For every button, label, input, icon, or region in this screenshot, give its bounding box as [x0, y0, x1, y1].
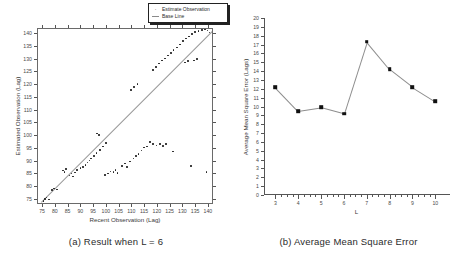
panel-b-x-tick-label: 7: [365, 200, 368, 206]
panel-b-y-tick: [261, 177, 264, 178]
scatter-point: [196, 58, 198, 60]
scatter-point: [191, 33, 193, 35]
panel-b-data-point: [433, 99, 437, 103]
panel-a-y-tick-label: 75: [26, 196, 32, 202]
panel-b-x-minor-tick: [395, 195, 396, 197]
panel-a-y-tick: [34, 148, 37, 149]
scatter-point: [71, 173, 73, 175]
panel-b-x-tick-label: 3: [274, 200, 277, 206]
panel-b-x-tick-label: 5: [320, 200, 323, 206]
panel-a-y-tick-label: 135: [23, 43, 32, 49]
panel-b-x-minor-tick: [298, 195, 299, 197]
panel-b-x-minor-tick: [384, 195, 385, 197]
panel-a-x-tick: [131, 204, 132, 207]
panel-a-x-tick: [106, 204, 107, 207]
panel-a-x-tick-label: 140: [204, 208, 213, 214]
scatter-point: [207, 30, 209, 32]
scatter-point: [115, 169, 117, 171]
panel-b-x-tick-label: 4: [297, 200, 300, 206]
panel-b-x-minor-tick: [344, 195, 345, 197]
panel-a-x-tick-label: 120: [153, 208, 162, 214]
panel-b-y-tick-label: 14: [253, 68, 259, 74]
panel-b-plot-area: [264, 18, 449, 195]
scatter-point: [126, 166, 128, 168]
line-marker-icon: [152, 16, 159, 17]
panel-b-y-axis-title: Average Mean Square Error (Lags): [242, 58, 249, 155]
panel-b-y-tick: [261, 133, 264, 134]
panel-a-x-tick: [119, 204, 120, 207]
panel-b-line-segment: [275, 87, 299, 112]
scatter-point: [87, 162, 89, 164]
panel-a-y-tick-right: [213, 84, 216, 85]
panel-a-x-tick: [208, 204, 209, 207]
scatter-point: [198, 30, 200, 32]
panel-a-y-tick: [34, 59, 37, 60]
scatter-point: [194, 31, 196, 33]
panel-b-x-minor-tick: [355, 195, 356, 197]
panel-b-y-tick-label: 3: [256, 165, 259, 171]
scatter-point: [105, 142, 107, 144]
panel-b-x-minor-tick: [424, 195, 425, 197]
panel-a-x-tick-top: [42, 25, 43, 28]
scatter-point: [173, 49, 175, 51]
panel-b-x-minor-tick: [287, 195, 288, 197]
panel-b-y-tick-label: 10: [253, 104, 259, 110]
panel-b-y-tick-label: 2: [256, 174, 259, 180]
panel-a-base-line: [41, 32, 212, 203]
panel-a-y-tick-right: [213, 173, 216, 174]
scatter-point: [133, 86, 135, 88]
panel-a-x-tick-top: [182, 25, 183, 28]
panel-a-x-tick: [42, 204, 43, 207]
panel-b-y-tick-label: 8: [256, 121, 259, 127]
panel-a-x-tick-label: 85: [65, 208, 71, 214]
panel-a-x-tick: [80, 204, 81, 207]
panel-b-y-tick-label: 17: [253, 42, 259, 48]
scatter-point: [80, 167, 82, 169]
panel-a-y-tick-right: [213, 33, 216, 34]
panel-a-x-tick-top: [119, 25, 120, 28]
panel-b-data-point: [274, 85, 278, 89]
panel-b-y-tick-label: 15: [253, 59, 259, 65]
scatter-point: [74, 172, 76, 174]
panel-a-plot-area: [38, 29, 212, 203]
scatter-point: [161, 60, 163, 62]
scatter-point: [104, 174, 106, 176]
panel-a-x-tick-top: [55, 25, 56, 28]
scatter-point: [90, 158, 92, 160]
panel-a-x-tick-top: [208, 25, 209, 28]
legend-item-estimate-observation: · Estimate Observation: [152, 6, 224, 13]
scatter-point: [152, 69, 154, 71]
panel-b-y-tick: [261, 160, 264, 161]
panel-a-x-tick: [93, 204, 94, 207]
scatter-point: [179, 44, 181, 46]
panel-a-y-tick: [34, 97, 37, 98]
scatter-point: [201, 29, 203, 31]
panel-a-x-tick-label: 75: [39, 208, 45, 214]
panel-b-y-tick-label: 20: [253, 15, 259, 21]
panel-a-y-tick: [34, 46, 37, 47]
panel-a-y-axis-title: Estimated Observation (Lag): [14, 77, 21, 156]
scatter-point: [159, 143, 161, 145]
panel-b-x-minor-tick: [361, 195, 362, 197]
panel-b-data-point: [365, 40, 369, 44]
panel-b-y-tick-label: 11: [254, 95, 259, 101]
panel-a-y-tick-right: [213, 59, 216, 60]
scatter-point: [69, 175, 71, 177]
panel-a-y-tick-right: [213, 97, 216, 98]
panel-a-y-tick-right: [213, 46, 216, 47]
panel-b-x-minor-tick: [407, 195, 408, 197]
panel-a-x-tick-label: 125: [165, 208, 174, 214]
panel-a-x-tick-label: 105: [114, 208, 123, 214]
panel-a-x-tick-label: 135: [191, 208, 200, 214]
panel-a-x-tick-label: 95: [90, 208, 96, 214]
panel-b-y-tick-label: 5: [256, 148, 259, 154]
panel-a-x-tick: [157, 204, 158, 207]
panel-b-y-tick: [261, 27, 264, 28]
panel-a-x-tick-top: [80, 25, 81, 28]
panel-b-y-tick-label: 9: [256, 112, 259, 118]
scatter-point: [156, 145, 158, 147]
panel-b-line-segment: [366, 42, 390, 70]
panel-b-y-tick: [261, 195, 264, 196]
scatter-point: [121, 165, 123, 167]
scatter-point: [149, 141, 151, 143]
